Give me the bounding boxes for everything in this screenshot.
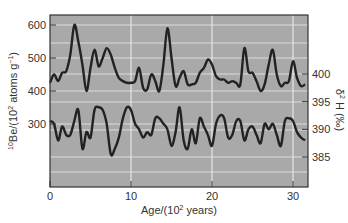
- y-right-tick-label: 400: [312, 68, 330, 80]
- x-tick-label: 20: [206, 190, 218, 202]
- y-left-tick-label: 300: [28, 118, 46, 130]
- x-tick-label: 30: [287, 190, 299, 202]
- plot-background: [50, 15, 308, 187]
- x-tick-label: 10: [125, 190, 137, 202]
- x-tick-label: 0: [47, 190, 53, 202]
- y-right-tick-label: 385: [312, 151, 330, 163]
- x-axis-title: Age/(102 years): [141, 204, 217, 216]
- y-right-tick-label: 395: [312, 96, 330, 108]
- chart: 600500400300 400395390385 0102030 Age/(1…: [0, 0, 348, 223]
- y-left-tick-label: 600: [28, 19, 46, 31]
- y-left-tick-label: 400: [28, 85, 46, 97]
- y-left-tick-label: 500: [28, 52, 46, 64]
- y-left-axis-title: 10Be/(102 atoms g−1): [7, 52, 19, 150]
- y-right-tick-label: 390: [312, 123, 330, 135]
- y-right-axis-title: δ2 H (‰): [334, 89, 346, 131]
